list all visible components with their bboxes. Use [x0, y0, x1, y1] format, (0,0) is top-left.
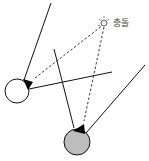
white-ball-dashed-ray: [35, 25, 103, 78]
gray-ball-left-ray: [54, 49, 74, 128]
gray-ball: [64, 129, 90, 155]
collision-label: 충돌: [113, 18, 129, 28]
collision-burst-icon: [98, 16, 109, 26]
white-ball-right-ray: [29, 72, 112, 89]
